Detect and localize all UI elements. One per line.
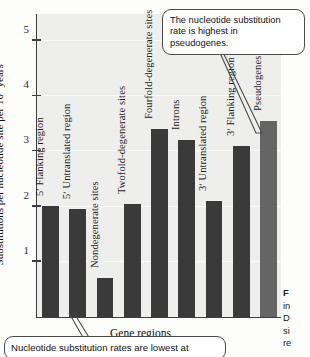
bar-slot: Fourfold-degenerate sites	[151, 14, 168, 317]
callout-pseudogenes: The nucleotide substitution rate is high…	[162, 9, 305, 55]
y-tick-label-5: 5	[24, 23, 30, 35]
bar[interactable]	[42, 206, 59, 317]
bar-category-label: 5ʹ Untranslated region	[61, 104, 72, 199]
bar-slot: 5ʹ Flanking region	[42, 14, 59, 317]
bar-category-label: Nondegenerate sites	[89, 182, 100, 269]
bar-category-label: 3ʹ Flanking region	[225, 57, 236, 136]
bar[interactable]	[233, 146, 250, 317]
bar[interactable]	[206, 201, 223, 317]
bar-slot: Pseudogenes	[260, 14, 277, 317]
plot-area: 1 2 3 4 5 5ʹ Flanking region5ʹ Untransla…	[36, 14, 281, 318]
bar[interactable]	[124, 204, 141, 317]
bar-category-label: Fourfold-degenerate sites	[143, 10, 154, 120]
bar-category-label: 3ʹ Untranslated region	[197, 95, 208, 190]
caption-line-2: in	[283, 300, 310, 313]
caption-line-1: F	[283, 287, 310, 300]
bar[interactable]	[260, 121, 277, 317]
y-axis-title-tail: years	[0, 64, 5, 90]
y-axis-title: Substitutions per nucleotide site per 10…	[0, 64, 5, 265]
bar-slot: 3ʹ Flanking region	[233, 14, 250, 317]
bar[interactable]	[69, 209, 86, 317]
figure-caption-fragment: F in D si re	[283, 287, 310, 350]
bar-slot: Twofold-degenerate sites	[124, 14, 141, 317]
callout-nondegenerate: Nucleotide substitution rates are lowest…	[4, 336, 226, 357]
bar-slot: 3ʹ Untranslated region	[206, 14, 223, 317]
bar-slot: Introns	[178, 14, 195, 317]
bar-category-label: 5ʹ Flanking region	[34, 118, 45, 197]
bar[interactable]	[178, 140, 195, 317]
y-axis-title-main: Substitutions per nucleotide site per 10	[0, 94, 5, 265]
y-tick-label-4: 4	[24, 78, 30, 90]
y-tick-label-3: 3	[24, 133, 30, 145]
y-tick-label-2: 2	[24, 189, 30, 201]
bar-slot: Nondegenerate sites	[97, 14, 114, 317]
y-tick-label-1: 1	[24, 244, 30, 256]
bar-slot: 5ʹ Untranslated region	[69, 14, 86, 317]
caption-line-3: D	[283, 312, 310, 325]
caption-line-5: re	[283, 337, 310, 350]
bar[interactable]	[151, 129, 168, 317]
bar-series: 5ʹ Flanking region5ʹ Untranslated region…	[37, 14, 281, 317]
bar[interactable]	[97, 278, 114, 317]
figure-root: Substitutions per nucleotide site per 10…	[0, 0, 310, 357]
caption-line-4: si	[283, 325, 310, 338]
bar-category-label: Twofold-degenerate sites	[116, 86, 127, 194]
bar-category-label: Introns	[170, 100, 181, 130]
bar-category-label: Pseudogenes	[252, 55, 263, 110]
